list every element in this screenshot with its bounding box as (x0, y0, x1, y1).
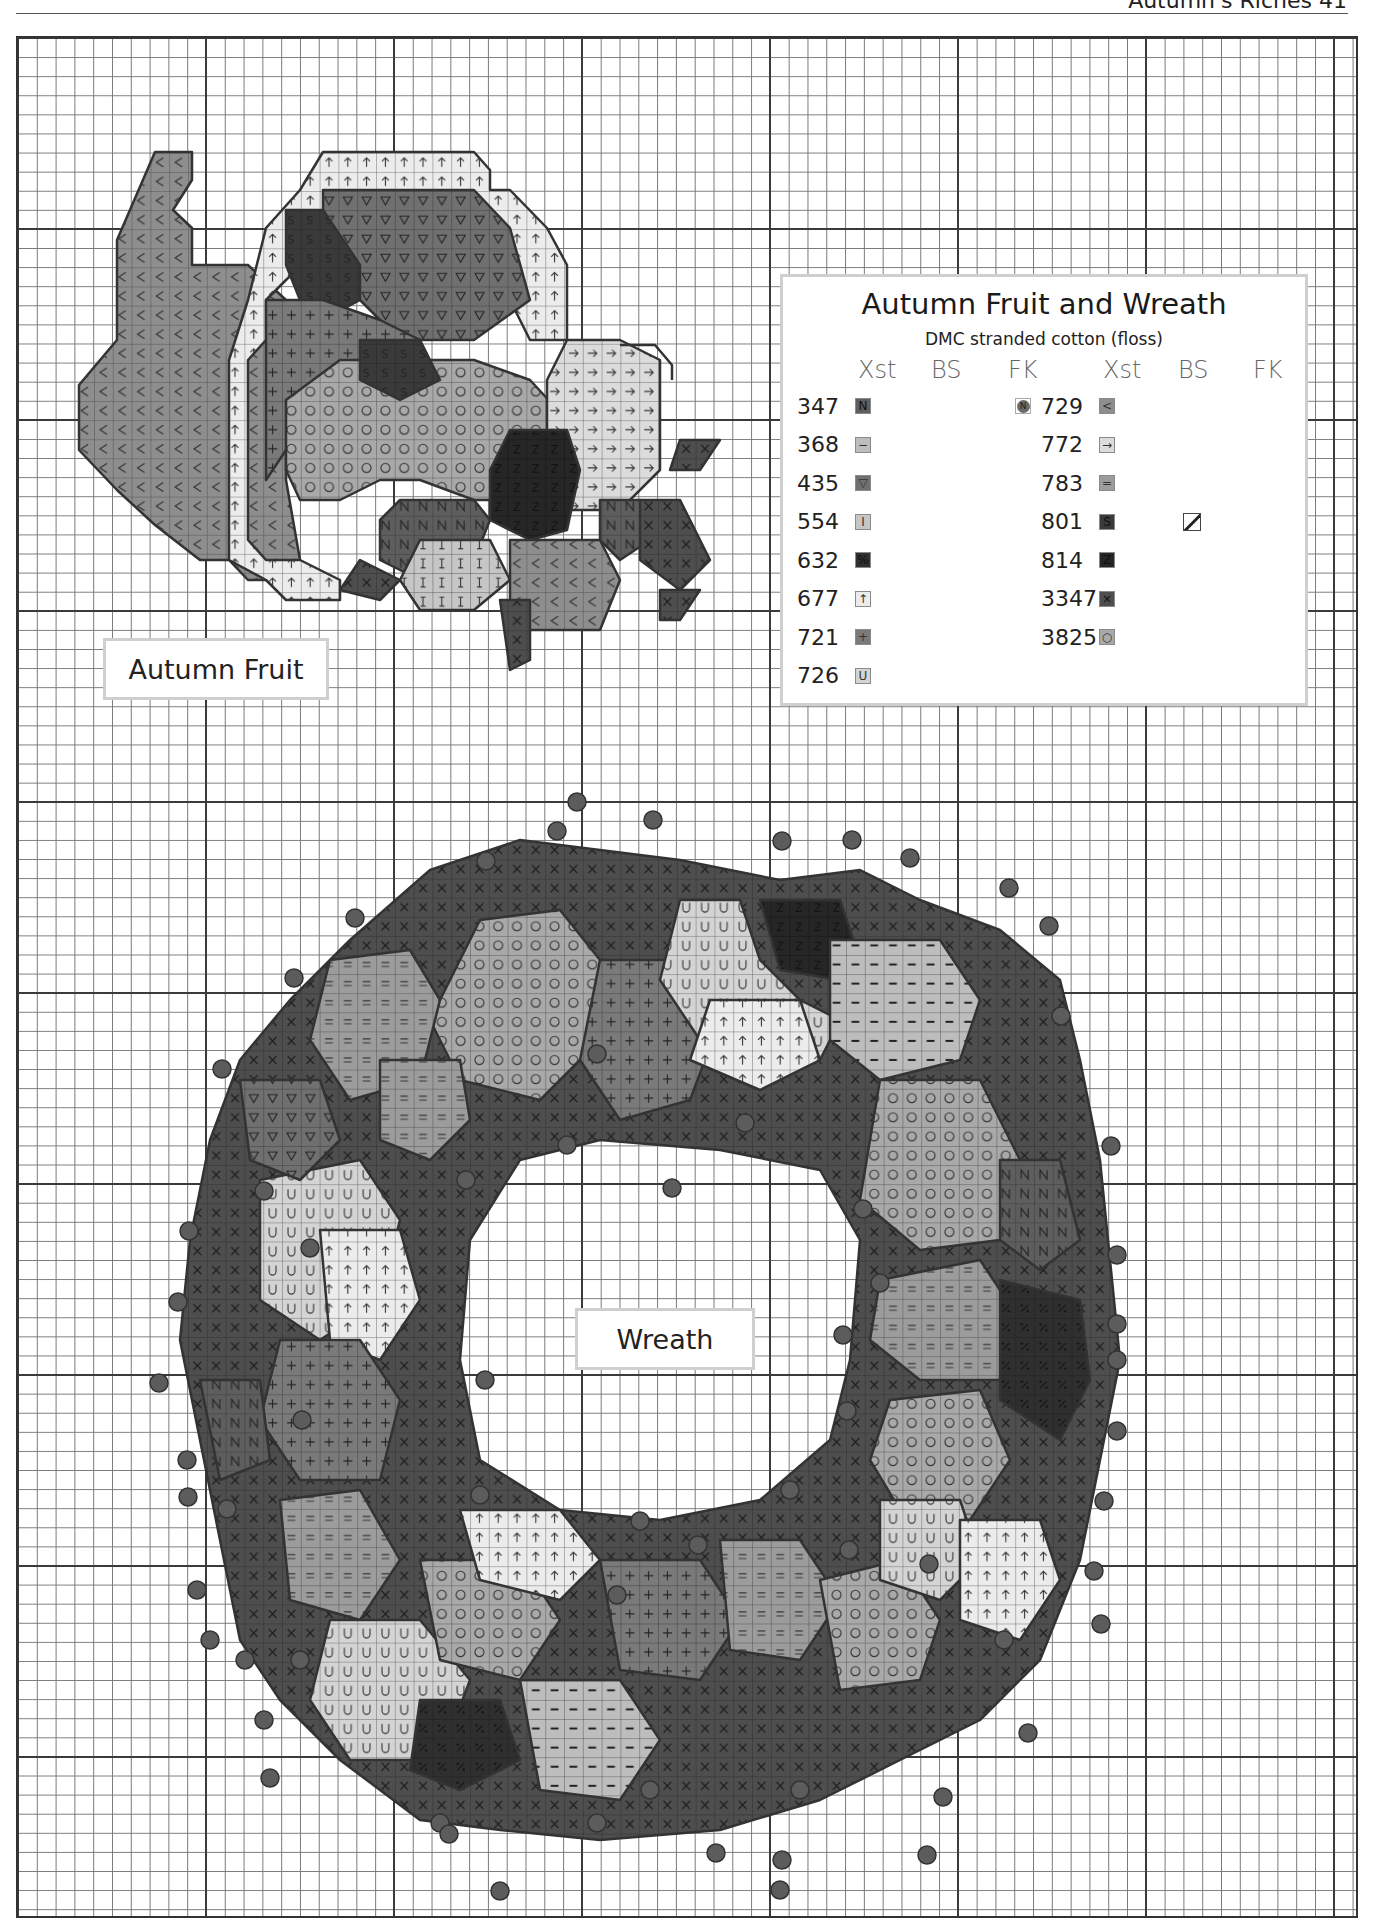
key-row-left: 347N (797, 391, 871, 421)
page-header: Autumn's Riches 41 (0, 0, 1387, 16)
dmc-number: 3825 (1041, 625, 1099, 650)
cross-stitch-symbol-icon: ↑ (855, 591, 871, 607)
cross-stitch-symbol-icon: N (855, 398, 871, 414)
key-row-left: 435▽ (797, 468, 871, 498)
dmc-number: 632 (797, 548, 855, 573)
key-row-left: 368− (797, 430, 871, 460)
running-head: Autumn's Riches 41 (1128, 0, 1347, 13)
col-head-xst-left: Xst (858, 356, 896, 384)
key-row-right: 729< (1041, 391, 1115, 421)
key-subtitle: DMC stranded cotton (floss) (783, 329, 1305, 349)
key-row-right: 3347× (1041, 584, 1115, 614)
cross-stitch-symbol-icon: → (1099, 437, 1115, 453)
dmc-number: 3347 (1041, 586, 1099, 611)
cross-stitch-symbol-icon: S (1099, 514, 1115, 530)
dmc-number: 435 (797, 471, 855, 496)
cross-stitch-symbol-icon: < (1099, 398, 1115, 414)
key-row-left: 721+ (797, 622, 871, 652)
dmc-number: 347 (797, 394, 855, 419)
cross-stitch-symbol-icon: I (855, 514, 871, 530)
key-title: Autumn Fruit and Wreath (783, 287, 1305, 321)
cross-stitch-symbol-icon: ○ (1099, 629, 1115, 645)
key-row-left: 726U (797, 661, 871, 691)
label-wreath: Wreath (575, 1308, 755, 1370)
key-row-right: 801S (1041, 507, 1115, 537)
key-row-left: 677↑ (797, 584, 871, 614)
cross-stitch-symbol-icon: × (1099, 591, 1115, 607)
cross-stitch-symbol-icon: = (1099, 475, 1115, 491)
cross-stitch-symbol-icon: % (855, 552, 871, 568)
french-knot-icon: N (1015, 398, 1031, 414)
dmc-number: 726 (797, 663, 855, 688)
col-head-xst-right: Xst (1103, 356, 1141, 384)
dmc-number: 721 (797, 625, 855, 650)
header-rule (16, 13, 1348, 14)
dmc-number: 772 (1041, 432, 1099, 457)
dmc-number: 814 (1041, 548, 1099, 573)
dmc-number: 677 (797, 586, 855, 611)
cross-stitch-symbol-icon: + (855, 629, 871, 645)
backstitch-icon (1183, 513, 1201, 531)
key-row-right: 772→ (1041, 430, 1115, 460)
key-row-right: 3825○ (1041, 622, 1115, 652)
color-key: Autumn Fruit and Wreath DMC stranded cot… (780, 274, 1308, 706)
label-autumn-fruit: Autumn Fruit (103, 638, 329, 700)
dmc-number: 368 (797, 432, 855, 457)
key-row-left: 554I (797, 507, 871, 537)
cross-stitch-symbol-icon: Z (1099, 552, 1115, 568)
dmc-number: 554 (797, 509, 855, 534)
col-head-bs-left: BS (931, 356, 962, 384)
cross-stitch-symbol-icon: ▽ (855, 475, 871, 491)
col-head-bs-right: BS (1178, 356, 1209, 384)
key-row-right: 814Z (1041, 545, 1115, 575)
dmc-number: 801 (1041, 509, 1099, 534)
col-head-fk-left: FK (1008, 356, 1038, 384)
cross-stitch-symbol-icon: − (855, 437, 871, 453)
col-head-fk-right: FK (1253, 356, 1283, 384)
key-row-left: 632% (797, 545, 871, 575)
dmc-number: 783 (1041, 471, 1099, 496)
cross-stitch-symbol-icon: U (855, 668, 871, 684)
dmc-number: 729 (1041, 394, 1099, 419)
key-row-right: 783= (1041, 468, 1115, 498)
